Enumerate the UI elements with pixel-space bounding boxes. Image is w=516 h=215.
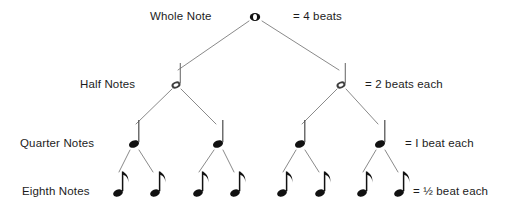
tree-graphics: [0, 0, 516, 215]
eighth-note-icon: [314, 172, 330, 198]
edge-quarter-3-to-eighth-5: [283, 150, 296, 172]
quarter-note-row-glyphs: [128, 120, 386, 149]
eighth-note-icon: [149, 172, 165, 198]
eighth-note-icon: [229, 172, 245, 198]
beats-label-half-notes: = 2 beats each: [365, 79, 443, 91]
edge-whole-to-half-right: [262, 21, 339, 70]
half-note-icon: [170, 63, 181, 90]
eighth-note-icon: [276, 172, 292, 198]
row-label-quarter-notes: Quarter Notes: [20, 138, 94, 150]
whole-note-row-glyphs: [250, 13, 260, 21]
beats-label-eighth-notes: = ½ beat each: [413, 186, 488, 198]
edge-quarter-1-to-eighth-2: [139, 150, 153, 172]
edge-half-left-to-quarter-1: [136, 89, 172, 124]
edge-half-right-to-quarter-3: [302, 89, 337, 124]
tree-edges: [119, 21, 398, 172]
quarter-note-icon: [294, 120, 306, 149]
edge-half-left-to-quarter-2: [181, 89, 216, 124]
eighth-note-icon: [393, 172, 409, 198]
edge-quarter-1-to-eighth-1: [119, 150, 130, 172]
quarter-note-icon: [212, 120, 224, 149]
edge-quarter-2-to-eighth-3: [199, 150, 214, 172]
edge-half-right-to-quarter-4: [346, 89, 378, 124]
edge-quarter-2-to-eighth-4: [223, 150, 234, 172]
eighth-note-icon: [112, 172, 128, 198]
eighth-note-row-glyphs: [112, 172, 409, 198]
row-label-whole-note: Whole Note: [150, 11, 212, 23]
edge-quarter-4-to-eighth-7: [363, 150, 376, 172]
beats-label-quarter-notes: = I beat each: [405, 138, 474, 150]
edge-quarter-4-to-eighth-8: [385, 150, 398, 172]
note-value-tree-diagram: Whole Note Half Notes Quarter Notes Eigh…: [0, 0, 516, 215]
row-label-eighth-notes: Eighth Notes: [22, 186, 90, 198]
eighth-note-icon: [356, 172, 372, 198]
quarter-note-icon: [374, 120, 386, 149]
row-label-half-notes: Half Notes: [80, 79, 135, 91]
beats-label-whole-note: = 4 beats: [293, 11, 342, 23]
half-note-icon: [335, 63, 346, 90]
eighth-note-icon: [192, 172, 208, 198]
edge-whole-to-half-left: [178, 21, 249, 70]
whole-note-icon: [250, 13, 260, 21]
half-note-row-glyphs: [170, 63, 346, 90]
quarter-note-icon: [128, 120, 140, 149]
edge-quarter-3-to-eighth-6: [305, 150, 319, 172]
